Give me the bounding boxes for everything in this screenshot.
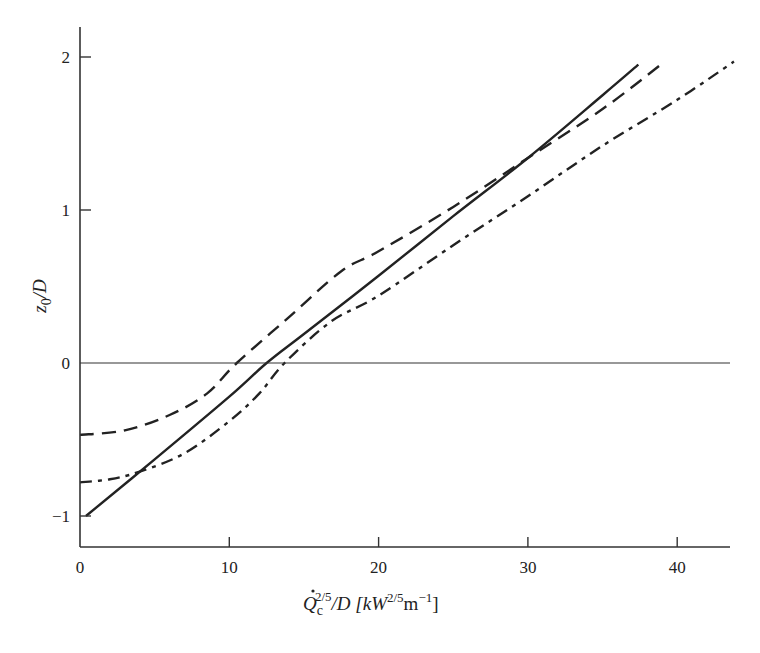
y-tick-label: 2	[62, 48, 71, 67]
series-dash-dot-line	[80, 62, 734, 483]
x-tick-label: 20	[370, 558, 387, 577]
x-tick-label: 40	[669, 558, 686, 577]
x-title-rest: /D [kW	[331, 593, 390, 614]
x-title-close: ]	[432, 593, 438, 614]
y-tick-label: 0	[62, 354, 71, 373]
x-title-sub: c	[317, 603, 323, 618]
x-title-unit-mid: m	[404, 593, 419, 614]
plot-series	[80, 62, 734, 516]
y-tick-label: 1	[62, 201, 71, 220]
x-tick-label: 30	[519, 558, 536, 577]
y-axis-title: z0/D	[29, 279, 54, 314]
x-title-sup: 2/5	[315, 589, 332, 604]
x-tick-label: 0	[76, 558, 85, 577]
x-title-dot-accent	[311, 589, 314, 592]
chart: 010203040 −1012 Qc2/5/D [kW2/5m−1] z0/D	[0, 0, 760, 653]
y-axis-ticks: −1012	[52, 48, 91, 526]
x-axis-ticks: 010203040	[76, 537, 686, 577]
x-title-unit-sup: 2/5	[387, 590, 404, 605]
series-solid-line	[86, 65, 638, 516]
x-tick-label: 10	[221, 558, 238, 577]
y-title-sub: 0	[39, 298, 54, 305]
y-title-rest: /D	[29, 279, 50, 299]
y-tick-label: −1	[52, 507, 70, 526]
x-axis-title: Qc2/5/D [kW2/5m−1]	[303, 589, 439, 618]
x-title-unit-sup2: −1	[418, 590, 432, 605]
